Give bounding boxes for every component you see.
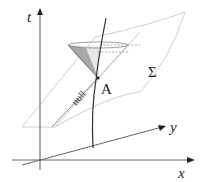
y-axis-label: y bbox=[168, 119, 177, 135]
y-axis bbox=[22, 125, 166, 165]
sigma-label: Σ bbox=[148, 64, 157, 80]
t-axis-label: t bbox=[27, 9, 32, 25]
x-axis-label: x bbox=[177, 165, 185, 181]
t-axis bbox=[37, 8, 43, 170]
spacetime-diagram: t x y A Σ null bbox=[0, 0, 206, 182]
point-a-marker bbox=[97, 77, 100, 80]
diagram-canvas: t x y A Σ null bbox=[0, 0, 206, 182]
point-a-label: A bbox=[101, 81, 112, 97]
